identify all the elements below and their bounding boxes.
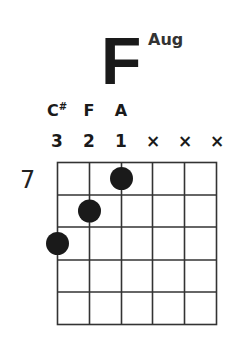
- finger-dot-string-3: [110, 167, 133, 190]
- finger-dot-string-1: [46, 232, 69, 255]
- fretboard-grid: [0, 0, 237, 349]
- finger-dot-string-2: [78, 200, 101, 223]
- grid-lines: [57, 162, 217, 325]
